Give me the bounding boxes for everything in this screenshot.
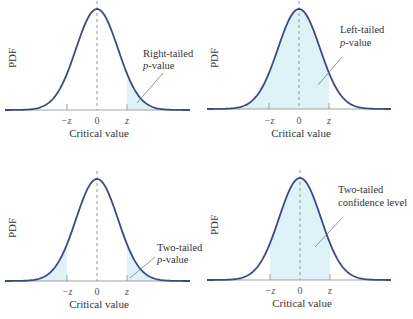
annotation-line2: confidence level — [338, 197, 407, 208]
tick-neg-z: −z — [62, 286, 73, 297]
tick-z: z — [124, 286, 129, 297]
tick-neg-z: −z — [61, 115, 72, 126]
x-axis-label: Critical value — [69, 298, 129, 310]
shaded-region — [270, 178, 330, 280]
tick-neg-z: −z — [264, 115, 275, 126]
tick-zero: 0 — [297, 115, 302, 126]
annotation-leader — [137, 73, 163, 103]
x-axis-label: Critical value — [69, 127, 129, 139]
annotation-line2: p-value — [339, 37, 372, 48]
tick-z: z — [327, 285, 332, 296]
x-axis-label: Critical value — [271, 127, 331, 139]
shaded-region — [15, 244, 67, 281]
tick-zero: 0 — [298, 285, 303, 296]
annotation-line2: p-value — [142, 60, 175, 71]
y-axis-label: PDF — [6, 218, 18, 238]
annotation-line1: Left-tailed — [340, 24, 385, 35]
tick-z: z — [124, 115, 129, 126]
x-axis-label: Critical value — [272, 297, 332, 309]
annotation-line1: Two-tailed — [157, 242, 203, 253]
tick-zero: 0 — [95, 286, 100, 297]
shaded-region — [217, 9, 329, 109]
normal-distribution-figure: PDF −z 0 z Critical value Right-tailed p… — [0, 0, 413, 319]
pdf-curve — [5, 179, 190, 281]
panel-right-tailed: PDF −z 0 z Critical value Right-tailed p… — [6, 48, 194, 139]
annotation-line1: Two-tailed — [338, 184, 384, 195]
annotation-line1: Right-tailed — [143, 48, 194, 59]
annotation-line2: p-value — [156, 254, 189, 265]
y-axis-label: PDF — [208, 215, 220, 235]
tick-z: z — [326, 115, 331, 126]
tick-zero: 0 — [95, 115, 100, 126]
y-axis-label: PDF — [208, 48, 220, 68]
plot-area-1 — [207, 1, 391, 109]
panel-two-tailed-p: PDF −z 0 z Critical value Two-tailed p-v… — [6, 218, 203, 310]
tick-neg-z: −z — [265, 285, 276, 296]
y-axis-label: PDF — [6, 48, 18, 68]
